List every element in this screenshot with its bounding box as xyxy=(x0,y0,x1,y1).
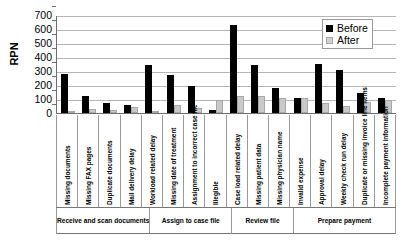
bar-before xyxy=(315,64,322,113)
legend-swatch-icon xyxy=(326,37,333,44)
bar-after xyxy=(89,109,96,113)
category-label-cell: Missing patient data xyxy=(247,115,268,207)
bar-before xyxy=(272,88,279,113)
bar-after xyxy=(174,105,181,113)
y-tick-mark xyxy=(52,104,56,105)
category-label: Invalid expense xyxy=(297,157,304,205)
category-label: Missing physician name xyxy=(276,131,283,205)
y-axis-tick-labels: 7006005004003002001000 xyxy=(20,10,52,115)
y-tick-label: 100 xyxy=(20,94,52,105)
bar-before xyxy=(103,103,110,113)
category-label: Case load related delay xyxy=(234,134,241,205)
process-group-bands: Receive and scan documentsAssign to case… xyxy=(56,208,396,234)
bar-group xyxy=(78,16,99,113)
category-label: Missing documents xyxy=(64,145,71,205)
bar-before xyxy=(251,65,258,113)
y-axis-title: RPN xyxy=(8,42,20,65)
category-label: Missing FAX pages xyxy=(85,147,92,205)
category-label-cell: Missing FAX pages xyxy=(77,115,98,207)
bar-before xyxy=(230,25,237,113)
bar-group xyxy=(248,16,269,113)
process-group-label: Review file xyxy=(246,217,280,225)
bar-before xyxy=(336,70,343,113)
category-label: Assignment to incorrect case file xyxy=(191,104,198,205)
bar-before xyxy=(82,96,89,114)
bar-group xyxy=(375,16,396,113)
y-tick-mark xyxy=(52,76,56,77)
bar-group xyxy=(205,16,226,113)
legend-label: Before xyxy=(337,22,368,34)
y-tick-mark xyxy=(52,48,56,49)
bar-group xyxy=(121,16,142,113)
bar-before xyxy=(209,110,216,113)
legend-item: Before xyxy=(326,22,368,34)
bar-group xyxy=(290,16,311,113)
category-label-cell: Case load related delay xyxy=(226,115,247,207)
bar-group xyxy=(227,16,248,113)
category-label: Mail delivery delay xyxy=(128,149,135,205)
bar-group xyxy=(57,16,78,113)
process-group-label: Prepare payment xyxy=(318,217,372,225)
y-tick-mark xyxy=(52,20,56,21)
bar-before xyxy=(124,105,131,113)
y-tick-mark xyxy=(52,6,56,7)
category-label-cell: Approval delay xyxy=(310,115,331,207)
y-tick-label: 0 xyxy=(20,108,52,119)
bar-before xyxy=(145,65,152,113)
y-tick-mark xyxy=(52,34,56,35)
process-group-cell: Review file xyxy=(231,208,293,234)
legend-item: After xyxy=(326,34,368,46)
category-label-cell: Missing physician name xyxy=(268,115,289,207)
bar-before xyxy=(61,74,68,113)
bar-before xyxy=(294,98,301,113)
category-label: Illegible xyxy=(212,181,219,205)
bar-group xyxy=(99,16,120,113)
category-label: Duplicate or missing invoice line items xyxy=(361,87,368,205)
category-label: Weekly check run delay xyxy=(340,133,347,205)
y-tick-label: 500 xyxy=(20,38,52,49)
bar-after xyxy=(131,107,138,113)
bar-group xyxy=(163,16,184,113)
bar-after xyxy=(237,96,244,114)
category-label: Missing date of treatment xyxy=(170,128,177,205)
category-label: Workload related delay xyxy=(149,135,156,205)
category-label: Incomplete payment information xyxy=(382,106,389,205)
category-label-cell: Weekly check run delay xyxy=(331,115,352,207)
y-tick-label: 300 xyxy=(20,66,52,77)
y-tick-label: 400 xyxy=(20,52,52,63)
bar-before xyxy=(167,75,174,113)
bar-after xyxy=(322,103,329,114)
process-group-cell: Prepare payment xyxy=(293,208,396,234)
category-label-cell: Mail delivery delay xyxy=(120,115,141,207)
category-label-cell: Missing date of treatment xyxy=(162,115,183,207)
category-label-cell: Illegible xyxy=(204,115,225,207)
category-label-cell: Invalid expense xyxy=(289,115,310,207)
bar-group xyxy=(142,16,163,113)
legend-swatch-icon xyxy=(326,25,333,32)
category-label-cell: Missing documents xyxy=(56,115,77,207)
chart-legend: BeforeAfter xyxy=(322,19,373,49)
y-tick-label: 600 xyxy=(20,24,52,35)
bar-after xyxy=(258,96,265,113)
category-label: Approval delay xyxy=(318,159,325,205)
bar-after xyxy=(279,98,286,113)
bar-group xyxy=(184,16,205,113)
category-label: Missing patient data xyxy=(255,144,262,205)
process-group-label: Assign to case file xyxy=(162,217,220,225)
y-tick-label: 200 xyxy=(20,80,52,91)
process-group-cell: Assign to case file xyxy=(149,208,231,234)
bar-after xyxy=(68,111,75,113)
bar-after xyxy=(152,111,159,113)
category-label-cell: Assignment to incorrect case file xyxy=(183,115,204,207)
process-group-cell: Receive and scan documents xyxy=(56,208,149,234)
process-group-label: Receive and scan documents xyxy=(57,217,149,225)
bar-group xyxy=(269,16,290,113)
rpn-bar-chart: RPN 7006005004003002001000 BeforeAfter M… xyxy=(0,0,401,251)
bar-after xyxy=(216,100,223,113)
y-tick-mark xyxy=(52,62,56,63)
category-label-cell: Incomplete payment information xyxy=(374,115,396,207)
category-label-cell: Duplicate documents xyxy=(98,115,119,207)
y-tick-label: 700 xyxy=(20,10,52,21)
bar-after xyxy=(301,98,308,113)
category-label-cell: Workload related delay xyxy=(141,115,162,207)
